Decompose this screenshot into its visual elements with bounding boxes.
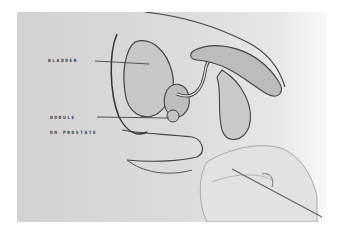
- anatomy-photo: BLADDER NODULE ON PROSTATE: [17, 12, 327, 222]
- label-bladder: BLADDER: [48, 58, 78, 63]
- label-on-prostate: ON PROSTATE: [50, 130, 97, 135]
- label-nodule: NODULE: [50, 115, 76, 120]
